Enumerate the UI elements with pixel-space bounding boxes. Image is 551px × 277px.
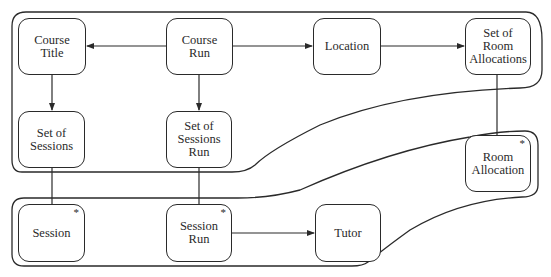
node-label: Session [32, 227, 70, 240]
lower-group-boundary [12, 131, 538, 266]
node-room-allocation[interactable]: * Room Allocation [465, 135, 531, 192]
node-label: Location [325, 40, 369, 53]
node-session-run[interactable]: * Session Run [166, 204, 232, 262]
node-label: Set of Room Allocations [469, 27, 527, 66]
node-course-title[interactable]: Course Title [18, 18, 86, 75]
node-label: Set of Sessions Run [167, 120, 231, 159]
node-label: Course Run [182, 34, 217, 60]
node-set-of-sessions[interactable]: Set of Sessions [18, 111, 85, 168]
node-tutor[interactable]: Tutor [315, 204, 381, 262]
node-label: Course Title [34, 34, 69, 60]
node-session[interactable]: * Session [18, 204, 85, 262]
node-label: Session Run [180, 220, 218, 246]
node-label: Tutor [334, 227, 361, 240]
node-course-run[interactable]: Course Run [166, 18, 233, 75]
upper-group-boundary [12, 12, 542, 172]
node-set-of-sessions-run[interactable]: Set of Sessions Run [166, 111, 232, 168]
multiplicity-marker: * [520, 138, 526, 149]
node-label: Room Allocation [472, 151, 525, 177]
multiplicity-marker: * [74, 207, 80, 218]
multiplicity-marker: * [221, 207, 227, 218]
node-label: Set of Sessions [30, 127, 73, 153]
node-set-of-room-allocations[interactable]: Set of Room Allocations [465, 18, 531, 75]
node-location[interactable]: Location [313, 18, 381, 75]
